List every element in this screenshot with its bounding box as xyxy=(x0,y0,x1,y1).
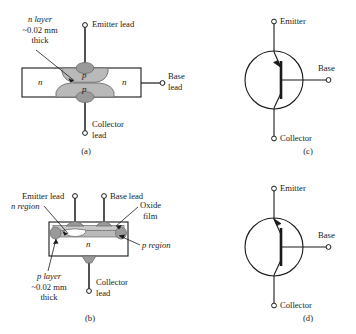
panel-a-alloy-junction-diagram: n layer ~0.02 mm thick Emitter lead Base… xyxy=(0,0,178,167)
base-lead-label: Base lead xyxy=(110,191,143,202)
p-layer-note: p layer ~0.02 mm thick xyxy=(18,271,80,303)
collector-terminal-circle xyxy=(87,289,92,294)
oxide-film-label-line1: Oxide xyxy=(140,200,161,211)
left-n-region-letter: n xyxy=(38,77,43,87)
base-terminal-circle xyxy=(160,81,165,86)
oxide-film-label-line2: film xyxy=(143,211,157,222)
collector-label: Collector xyxy=(280,133,312,144)
lower-p-region-letter: p xyxy=(82,84,87,94)
oxide-film-layer xyxy=(53,226,124,231)
collector-lead-label-line2: lead xyxy=(96,288,110,299)
emitter-arrowhead xyxy=(274,219,281,226)
p-layer-note-line3: thick xyxy=(40,292,57,302)
collector-lead-label-line1: Collector xyxy=(92,119,124,130)
left-edge-blob xyxy=(50,227,61,239)
collector-lead-label-line1: Collector xyxy=(96,277,128,288)
emitter-lead-label: Emitter lead xyxy=(22,191,64,202)
n-region-label-text: n region xyxy=(11,201,40,211)
panel-c-drawing xyxy=(178,0,356,167)
collector-terminal-circle xyxy=(272,303,277,308)
collector-terminal-circle xyxy=(272,136,277,141)
p-layer-note-line1: p layer xyxy=(37,271,61,281)
collector-slant-wire xyxy=(274,260,281,275)
collector-contact-wedge xyxy=(82,256,96,263)
emitter-terminal-circle xyxy=(272,19,277,24)
collector-terminal-circle xyxy=(83,131,88,136)
emitter-lead-label: Emitter lead xyxy=(92,19,134,30)
panel-a-caption: (a) xyxy=(66,146,106,156)
panel-d-caption: (d) xyxy=(288,313,328,323)
transistor-figure: n layer ~0.02 mm thick Emitter lead Base… xyxy=(0,0,356,334)
p-region-label: p region xyxy=(142,240,171,251)
emitter-label: Emitter xyxy=(280,183,306,194)
upper-p-region-letter: p xyxy=(82,70,87,80)
right-n-region-letter: n xyxy=(122,77,127,87)
base-terminal-circle xyxy=(102,194,107,199)
collector-slant-wire xyxy=(274,93,281,108)
p-region-label-text: p region xyxy=(142,240,171,250)
n-layer-note: n layer ~0.02 mm thick xyxy=(9,14,71,46)
n-layer-note-line3: thick xyxy=(31,35,48,45)
n-region-label: n region xyxy=(11,201,40,212)
emitter-terminal-circle xyxy=(83,23,88,28)
panel-b-caption: (b) xyxy=(70,313,110,323)
panel-d-drawing xyxy=(178,167,356,334)
n-layer-note-line2: ~0.02 mm xyxy=(22,25,57,35)
base-terminal-circle xyxy=(326,245,331,250)
collector-label: Collector xyxy=(280,300,312,311)
panel-c-pnp-symbol: Emitter Base Collector (c) xyxy=(178,0,356,167)
emitter-terminal-circle xyxy=(272,186,277,191)
substrate-n-letter: n xyxy=(86,239,91,249)
panel-c-caption: (c) xyxy=(288,146,328,156)
panel-d-npn-symbol: Emitter Base Collector (d) xyxy=(178,167,356,334)
base-label: Base xyxy=(318,230,335,241)
emitter-label: Emitter xyxy=(280,16,306,27)
n-layer-note-line1: n layer xyxy=(28,14,52,24)
p-layer-note-line2: ~0.02 mm xyxy=(31,282,66,292)
collector-lead-label-line2: lead xyxy=(92,130,106,141)
base-label: Base xyxy=(318,63,335,74)
panel-b-planar-diagram: Emitter lead Base lead n region Oxide fi… xyxy=(0,167,178,334)
base-terminal-circle xyxy=(326,78,331,83)
emitter-terminal-circle xyxy=(73,194,78,199)
